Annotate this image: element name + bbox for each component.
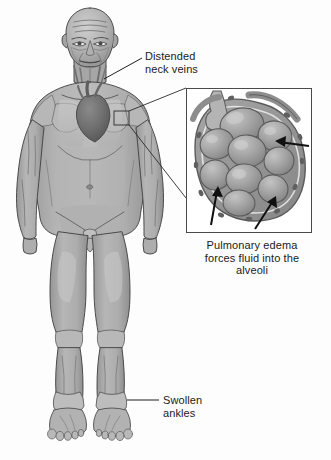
caption-pulmonary-edema: Pulmonary edema forces fluid into the al… [186, 239, 318, 277]
chest-marker-rect [114, 111, 129, 125]
cardiac-failure-illustration: Distended neck veins Pulmonary edema for… [0, 0, 331, 460]
alveoli-inset-panel [186, 88, 312, 233]
label-swollen-ankles: Swollen ankles [163, 394, 202, 419]
neck-veins-leader [104, 58, 142, 79]
alveoli-diagram [187, 89, 311, 232]
label-distended-neck-veins: Distended neck veins [145, 50, 198, 75]
